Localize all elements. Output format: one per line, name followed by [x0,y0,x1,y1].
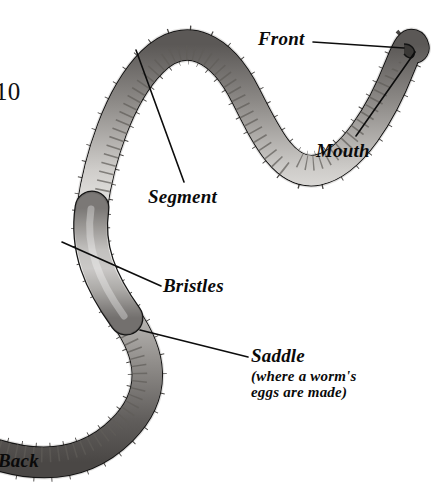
label-saddle-note: (where a worm's eggs are made) [251,368,357,400]
label-bristles: Bristles [163,275,224,297]
label-mouth: Mouth [316,140,370,162]
label-back: Back [0,450,39,472]
page-number: 10 [0,78,20,106]
label-front: Front [258,28,304,50]
worm-anatomy-diagram-page: 10 Front Mouth Segment Bristles Saddle (… [0,0,433,499]
earthworm-illustration [0,0,433,499]
label-saddle: Saddle [251,345,305,367]
label-segment: Segment [148,186,217,208]
leader-line-front [313,42,404,48]
